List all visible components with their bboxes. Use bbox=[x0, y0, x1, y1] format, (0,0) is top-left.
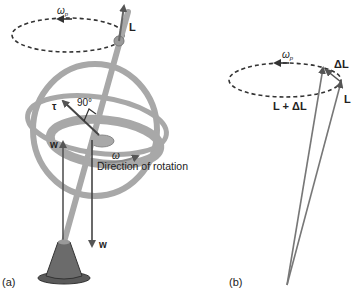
precession-path bbox=[12, 18, 124, 52]
rotation-caption: Direction of rotation bbox=[97, 160, 188, 172]
gyroscope-diagram: ωp L τ 90° w w ω Direction of rotation bbox=[0, 0, 358, 293]
angular-momentum-label: L bbox=[129, 21, 136, 33]
weight-label-left: w bbox=[49, 139, 58, 150]
L-plus-delta-label: L + ΔL bbox=[273, 100, 307, 112]
L-label: L bbox=[344, 93, 351, 105]
panel-a-label: (a) bbox=[2, 276, 15, 288]
panel-b: ωp L L + ΔL ΔL (b) bbox=[229, 49, 351, 288]
delta-L-label: ΔL bbox=[334, 58, 349, 70]
panel-a: ωp L τ 90° w w ω Direction of rotation bbox=[2, 5, 188, 288]
precession-label: ωp bbox=[57, 5, 69, 17]
torque-label: τ bbox=[52, 101, 57, 112]
panel-b-label: (b) bbox=[229, 276, 242, 288]
precession-path-b bbox=[229, 63, 341, 97]
base-top bbox=[58, 240, 70, 245]
base-cone bbox=[46, 242, 82, 279]
weight-label-right: w bbox=[98, 239, 107, 250]
L-vector bbox=[287, 82, 341, 285]
angle-label: 90° bbox=[77, 97, 92, 108]
spin-axle bbox=[64, 12, 128, 242]
precession-label-b: ωp bbox=[282, 49, 294, 61]
